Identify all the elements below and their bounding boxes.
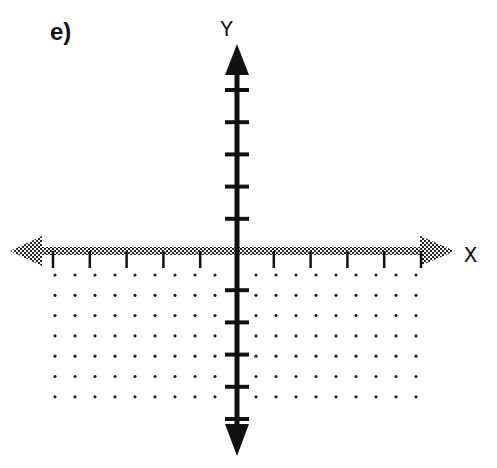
- coordinate-plane-figure: e) Y X: [0, 0, 497, 468]
- x-axis-left-arrow-icon: [10, 236, 42, 266]
- y-axis-down-arrow-icon: [225, 424, 249, 456]
- x-axis-boundary-line: [10, 236, 455, 266]
- axes-graphic: [0, 0, 497, 468]
- y-axis-up-arrow-icon: [225, 44, 249, 75]
- x-axis-right-arrow-icon: [420, 236, 455, 266]
